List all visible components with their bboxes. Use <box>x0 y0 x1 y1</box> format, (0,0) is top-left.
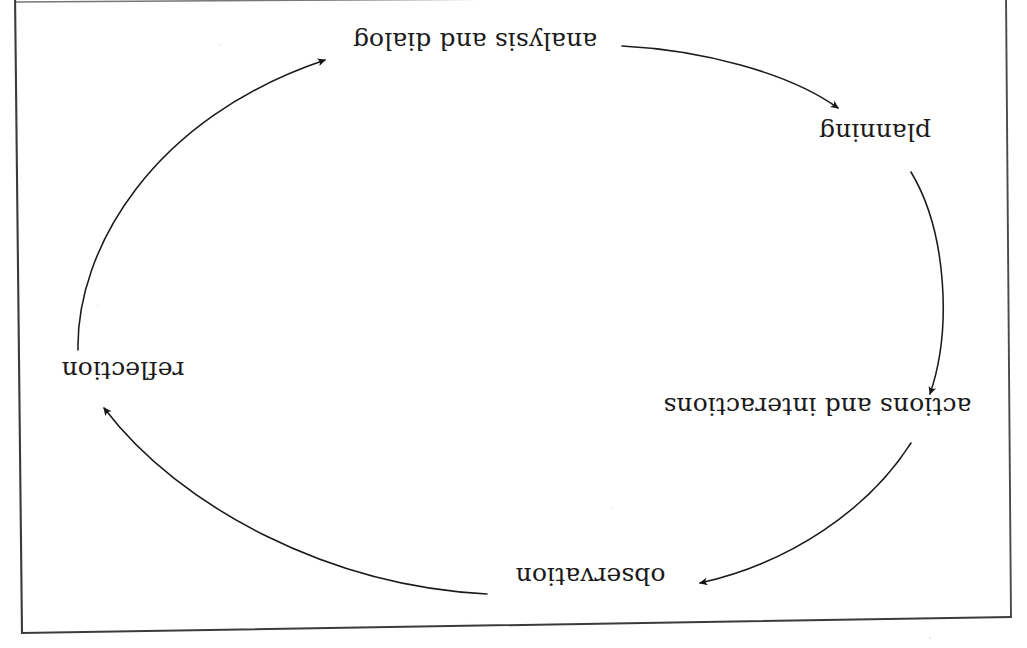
cycle-arrows <box>0 0 1027 648</box>
arrow-planning-to-actions <box>911 172 943 394</box>
scanned-page: analysis and dialog planning actions and… <box>0 0 1027 648</box>
node-label-reflection: reflection <box>48 356 198 384</box>
arrow-analysis-to-planning <box>622 46 838 108</box>
node-label-planning: planning <box>800 118 950 146</box>
node-label-actions-and-interactions: actions and interactions <box>650 392 985 420</box>
arrow-reflection-to-analysis <box>78 60 325 350</box>
arrow-actions-to-observation <box>700 443 911 583</box>
arrow-observation-to-reflection <box>104 408 487 594</box>
node-label-observation: observation <box>498 562 683 590</box>
node-label-analysis-and-dialog: analysis and dialog <box>330 27 620 55</box>
